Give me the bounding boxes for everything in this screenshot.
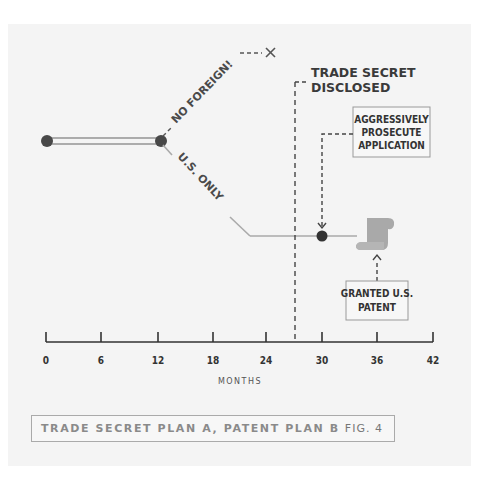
trade-secret-label-line2: DISCLOSED	[311, 80, 390, 95]
tick-label: 42	[427, 355, 440, 366]
no-foreign-branch: NO FOREIGN!	[163, 48, 275, 136]
trade-secret-label-line1: TRADE SECRET	[311, 65, 416, 80]
tick-label: 12	[152, 355, 165, 366]
x-mark-icon	[266, 48, 275, 57]
us-only-branch: U.S. ONLY	[163, 145, 357, 236]
no-foreign-label: NO FOREIGN!	[169, 58, 236, 126]
arrow-up-icon	[373, 255, 381, 260]
branch-dot	[155, 135, 167, 147]
tick-label: 6	[98, 355, 104, 366]
tick-label: 0	[43, 355, 49, 366]
patent-scroll-icon	[356, 218, 394, 250]
prosecute-line3: APPLICATION	[358, 140, 425, 151]
granted-line1: GRANTED U.S.	[341, 288, 413, 299]
prosecute-callout: AGGRESSIVELY PROSECUTE APPLICATION	[318, 107, 430, 228]
prosecute-line1: AGGRESSIVELY	[354, 114, 429, 125]
prosecute-dot	[317, 231, 328, 242]
granted-line2: PATENT	[358, 302, 397, 313]
months-axis: 0 6 12 18 24 30 36 42 MONTHS	[43, 332, 439, 386]
figure-caption: TRADE SECRET PLAN A, PATENT PLAN B FIG. …	[31, 415, 395, 442]
granted-patent-callout: GRANTED U.S. PATENT	[341, 255, 413, 320]
us-only-label: U.S. ONLY	[175, 150, 227, 204]
prosecute-line2: PROSECUTE	[362, 127, 422, 138]
initial-filing-bar	[47, 138, 161, 144]
axis-title: MONTHS	[218, 377, 262, 386]
start-dot	[41, 135, 53, 147]
tick-label: 30	[316, 355, 329, 366]
tick-label: 18	[207, 355, 220, 366]
caption-title: TRADE SECRET PLAN A, PATENT PLAN B	[41, 422, 340, 435]
tick-label: 24	[260, 355, 273, 366]
caption-fig-number: FIG. 4	[345, 422, 383, 435]
tick-label: 36	[371, 355, 384, 366]
